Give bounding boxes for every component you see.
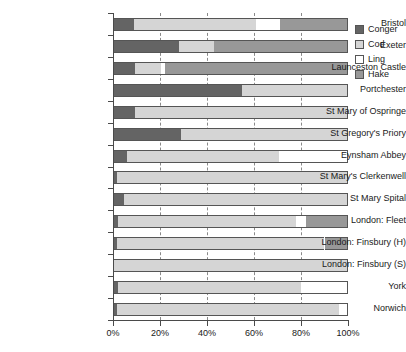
y-tick-label: St Mary Spital bbox=[300, 193, 406, 204]
legend-label: Hake bbox=[368, 69, 389, 79]
x-tick-label: 20% bbox=[140, 328, 180, 338]
y-tick-label: York bbox=[300, 281, 406, 292]
bar-segment-conger bbox=[113, 40, 179, 53]
bar-segment-cod bbox=[135, 62, 161, 75]
x-tick-mark bbox=[348, 321, 349, 326]
chart-legend: CongerCodLingHake bbox=[355, 22, 405, 82]
bar-segment-cod bbox=[127, 150, 279, 163]
y-tick-label: Norwich bbox=[300, 303, 406, 314]
bar-segment-cod bbox=[117, 237, 325, 250]
bar-segment-cod bbox=[134, 18, 256, 31]
x-tick-mark bbox=[207, 321, 208, 326]
gridline-40 bbox=[207, 13, 208, 320]
y-tick-label: St Gregory's Priory bbox=[300, 128, 406, 139]
x-tick-mark bbox=[301, 321, 302, 326]
y-tick-label: St Mary of Ospringe bbox=[300, 106, 406, 117]
y-tick-label: London: Finsbury (S) bbox=[300, 259, 406, 270]
legend-swatch-icon bbox=[355, 25, 364, 34]
gridline-20 bbox=[160, 13, 161, 320]
bar-segment-conger bbox=[113, 62, 135, 75]
x-axis-line bbox=[113, 320, 349, 321]
stacked-bar-chart: BristolExeterLaunceston CastlePortcheste… bbox=[0, 0, 406, 352]
x-tick-label: 80% bbox=[281, 328, 321, 338]
y-tick-label: Eynsham Abbey bbox=[300, 150, 406, 161]
x-tick-label: 40% bbox=[187, 328, 227, 338]
legend-item-conger: Conger bbox=[355, 22, 405, 36]
legend-swatch-icon bbox=[355, 70, 364, 79]
x-tick-label: 100% bbox=[328, 328, 368, 338]
y-tick-label: St Mary's Clerkenwell bbox=[300, 171, 406, 182]
legend-label: Cod bbox=[368, 39, 385, 49]
x-tick-label: 60% bbox=[234, 328, 274, 338]
x-tick-mark bbox=[160, 321, 161, 326]
bar-segment-cod bbox=[179, 40, 214, 53]
legend-item-ling: Ling bbox=[355, 52, 405, 66]
y-tick-label: London: Fleet bbox=[300, 215, 406, 226]
legend-swatch-icon bbox=[355, 40, 364, 49]
legend-item-cod: Cod bbox=[355, 37, 405, 51]
x-tick-label: 0% bbox=[93, 328, 133, 338]
gridline-60 bbox=[254, 13, 255, 320]
legend-swatch-icon bbox=[355, 55, 364, 64]
bar-segment-conger bbox=[113, 84, 242, 97]
legend-label: Conger bbox=[368, 24, 398, 34]
bar-segment-conger bbox=[113, 193, 124, 206]
bar-segment-cod bbox=[118, 281, 301, 294]
bar-segment-ling bbox=[256, 18, 280, 31]
y-tick-label: London: Finsbury (H) bbox=[300, 237, 406, 248]
y-axis-line bbox=[113, 13, 114, 321]
legend-item-hake: Hake bbox=[355, 67, 405, 81]
bar-segment-cod bbox=[118, 215, 297, 228]
legend-label: Ling bbox=[368, 54, 385, 64]
gridline-80 bbox=[301, 13, 302, 320]
bar-segment-conger bbox=[113, 128, 181, 141]
x-tick-mark bbox=[113, 321, 114, 326]
y-tick-label: Portchester bbox=[300, 84, 406, 95]
x-tick-mark bbox=[254, 321, 255, 326]
bar-segment-conger bbox=[113, 150, 127, 163]
bar-segment-conger bbox=[113, 18, 134, 31]
bar-segment-conger bbox=[113, 106, 135, 119]
